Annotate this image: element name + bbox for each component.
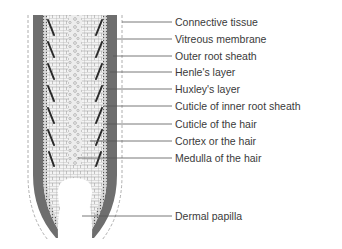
label-henles-layer: Henle's layer bbox=[175, 66, 235, 78]
label-cortex-of-hair: Cortex or the hair bbox=[175, 135, 256, 147]
label-cuticle-inner-root-sheath: Cuticle of inner root sheath bbox=[175, 100, 301, 112]
label-huxleys-layer: Huxley's layer bbox=[175, 83, 240, 95]
label-connective-tissue: Connective tissue bbox=[175, 16, 258, 28]
label-dermal-papilla: Dermal papilla bbox=[175, 210, 242, 222]
hair-follicle-diagram bbox=[0, 0, 342, 249]
dermal-papilla bbox=[58, 182, 92, 240]
label-vitreous-membrane: Vitreous membrane bbox=[175, 33, 266, 45]
medulla-column bbox=[68, 15, 82, 165]
label-medulla-of-hair: Medulla of the hair bbox=[175, 152, 261, 164]
label-cuticle-of-hair: Cuticle of the hair bbox=[175, 118, 257, 130]
label-outer-root-sheath: Outer root sheath bbox=[175, 50, 257, 62]
